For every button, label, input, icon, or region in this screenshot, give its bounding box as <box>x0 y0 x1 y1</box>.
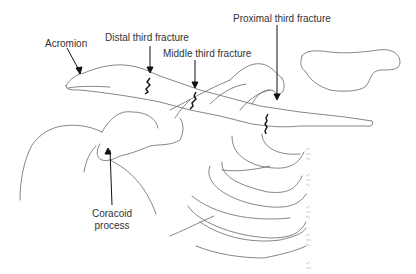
rib-5 <box>196 246 306 258</box>
fracture-lines <box>145 78 268 134</box>
sternum-piece <box>301 50 400 92</box>
label-coracoid-line2: process <box>88 220 136 232</box>
rib-1 <box>232 136 304 168</box>
label-distal-fracture: Distal third fracture <box>105 32 189 44</box>
humeral-head <box>20 125 102 200</box>
distal-arrowhead <box>147 67 153 73</box>
middle-fracture <box>190 92 196 109</box>
proximal-fracture <box>265 114 268 134</box>
label-middle-fracture: Middle third fracture <box>163 48 251 60</box>
label-proximal-fracture: Proximal third fracture <box>233 13 331 25</box>
label-acromion: Acromion <box>45 38 87 50</box>
clavicle-diagram: Acromion Distal third fracture Middle th… <box>0 0 416 274</box>
rib-4 <box>200 222 306 241</box>
label-coracoid-line1: Coracoid <box>88 208 136 220</box>
proximal-arrowhead <box>274 94 280 100</box>
rib-2 <box>209 166 306 207</box>
label-coracoid-process: Coracoid process <box>88 208 136 232</box>
rib-3 <box>188 206 306 238</box>
distal-fracture <box>145 78 150 94</box>
acromion-arrowhead <box>76 67 82 74</box>
